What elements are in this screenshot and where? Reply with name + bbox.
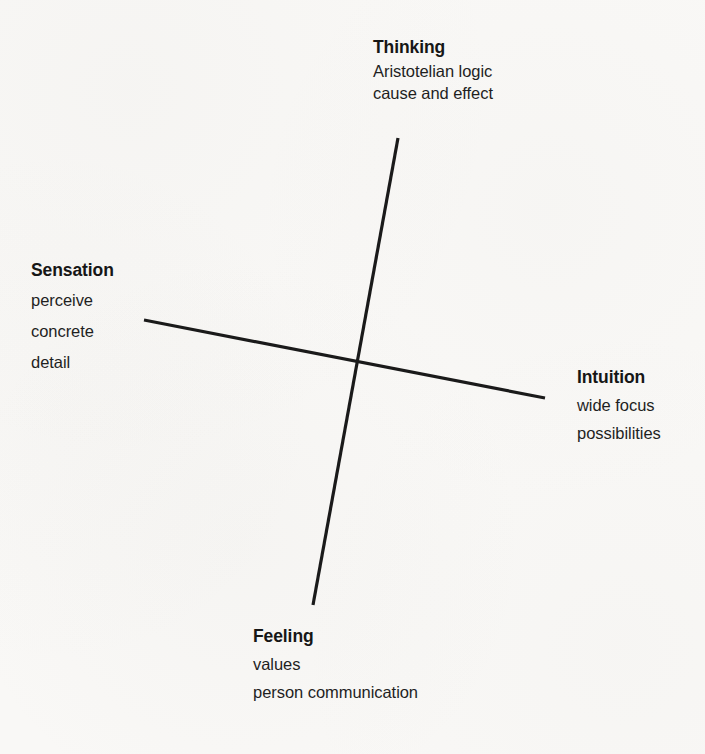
pole-title-intuition: Intuition [577, 363, 661, 391]
pole-detail-feeling-2: person communication [253, 678, 418, 706]
pole-detail-sensation-2: concrete [31, 316, 114, 347]
pole-detail-intuition-2: possibilities [577, 419, 661, 447]
pole-detail-intuition-1: wide focus [577, 391, 661, 419]
pole-detail-thinking-2: cause and effect [373, 82, 493, 104]
cognitive-functions-diagram: Thinking Aristotelian logic cause and ef… [0, 0, 705, 754]
thinking-feeling-axis-line [313, 138, 398, 605]
pole-detail-feeling-1: values [253, 650, 418, 678]
pole-title-sensation: Sensation [31, 255, 114, 285]
pole-detail-thinking-1: Aristotelian logic [373, 60, 493, 82]
sensation-intuition-axis-line [144, 320, 545, 398]
pole-label-feeling: Feeling values person communication [253, 622, 418, 706]
pole-detail-sensation-3: detail [31, 347, 114, 378]
pole-label-thinking: Thinking Aristotelian logic cause and ef… [373, 34, 493, 104]
pole-detail-sensation-1: perceive [31, 285, 114, 316]
pole-title-feeling: Feeling [253, 622, 418, 650]
pole-label-sensation: Sensation perceive concrete detail [31, 255, 114, 378]
pole-label-intuition: Intuition wide focus possibilities [577, 363, 661, 447]
pole-title-thinking: Thinking [373, 34, 493, 60]
